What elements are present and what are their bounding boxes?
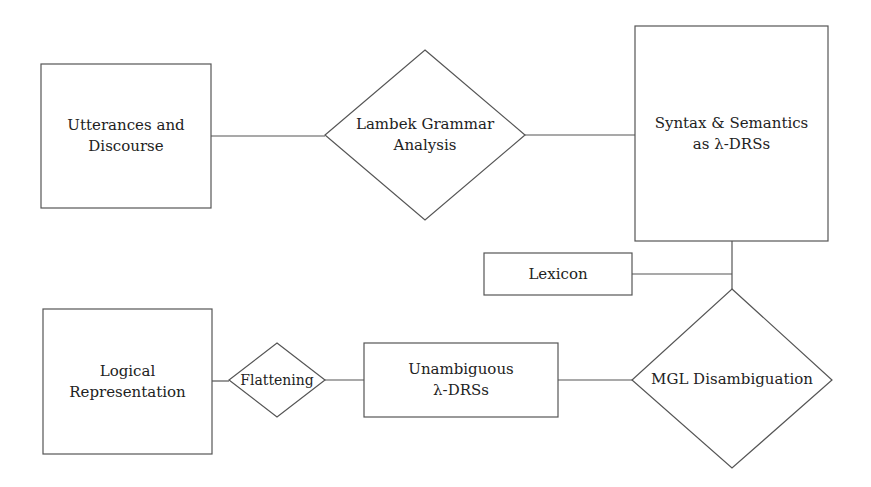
- label-lexicon: Lexicon: [484, 253, 632, 295]
- label-line: Syntax & Semantics: [655, 113, 809, 134]
- label-utterances: Utterances andDiscourse: [41, 64, 211, 208]
- label-line: Unambiguous: [408, 359, 514, 380]
- label-line: as λ-DRSs: [655, 134, 809, 155]
- label-line: Discourse: [67, 136, 184, 157]
- label-line: λ-DRSs: [408, 380, 514, 401]
- label-line: Utterances and: [67, 115, 184, 136]
- label-lambek: Lambek GrammarAnalysis: [325, 50, 525, 220]
- label-line: MGL Disambiguation: [651, 369, 813, 390]
- label-flattening: Flattening: [229, 343, 325, 417]
- label-line: Lambek Grammar: [356, 114, 494, 135]
- label-line: Flattening: [240, 370, 314, 391]
- label-line: Representation: [69, 382, 186, 403]
- label-line: Lexicon: [528, 264, 587, 285]
- label-syntax: Syntax & Semanticsas λ-DRSs: [635, 26, 828, 241]
- label-mgl: MGL Disambiguation: [632, 289, 832, 469]
- label-logical: LogicalRepresentation: [43, 309, 212, 454]
- label-line: Analysis: [356, 135, 494, 156]
- label-line: Logical: [69, 361, 186, 382]
- label-unambiguous: Unambiguousλ-DRSs: [364, 343, 558, 417]
